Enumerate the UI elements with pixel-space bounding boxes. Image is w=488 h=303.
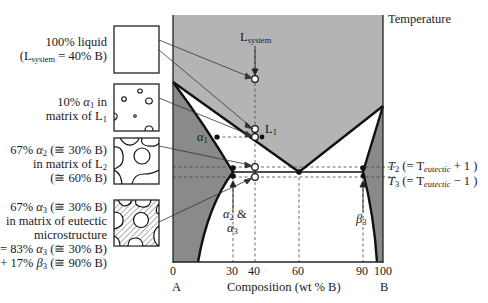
x-tick-100: 100 [374, 265, 392, 278]
label-liquid: 100% liquid (Lsystem = 40% B) [20, 35, 107, 63]
label-alpha2-alpha3: α2 & α3 [223, 207, 247, 235]
label-l1: L1 [265, 122, 277, 136]
microstructure-box-alpha1 [114, 84, 159, 131]
x-tick-60: 60 [292, 265, 304, 278]
label-t2: T2 (= Teutectic + 1 ) [388, 159, 477, 173]
component-a-label: A [172, 280, 181, 295]
label-beta3: β3 [356, 212, 366, 226]
label-alpha1: 10% α1 in matrix of L1 [46, 95, 107, 123]
microstructure-box-alpha2 [114, 138, 159, 184]
label-eutectic: 67% α3 (≅ 30% B) in matrix of eutectic m… [0, 200, 107, 270]
label-l-system: Lsystem [240, 30, 271, 44]
x-tick-90: 90 [356, 265, 368, 278]
label-temperature-axis: Temperature [388, 12, 451, 26]
x-tick-40: 40 [248, 265, 260, 278]
x-tick-30: 30 [226, 265, 238, 278]
label-alpha1-point: α1 [197, 130, 208, 144]
x-axis-label: Composition (wt % B) [227, 280, 341, 295]
microstructure-box-liquid [114, 26, 159, 73]
label-alpha2: 67% α2 (≅ 30% B) in matrix of L2 (≅ 60% … [10, 143, 107, 185]
label-t3: T3 (= Teutectic − 1 ) [388, 174, 477, 188]
component-b-label: B [380, 280, 388, 295]
x-tick-0: 0 [170, 265, 176, 278]
microstructure-box-eutectic [114, 200, 159, 246]
